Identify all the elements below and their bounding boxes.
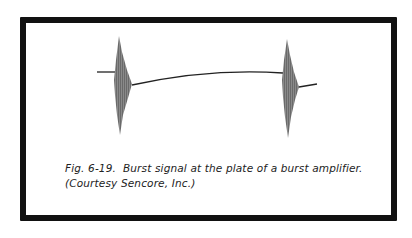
trace-between-bursts: [132, 72, 283, 85]
caption-line-1: Fig. 6-19. Burst signal at the plate of …: [65, 161, 363, 176]
figure-caption: Fig. 6-19. Burst signal at the plate of …: [65, 161, 363, 191]
caption-line-2: (Courtesy Sencore, Inc.): [65, 176, 363, 191]
burst-1: [114, 36, 132, 135]
burst-waveform-illustration: [0, 0, 412, 238]
trace-right-stub: [299, 84, 317, 87]
burst-2: [282, 39, 299, 138]
